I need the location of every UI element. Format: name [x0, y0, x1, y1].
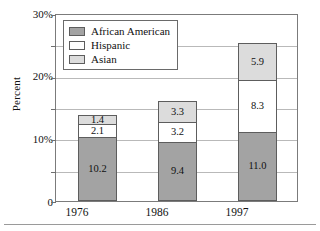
- bar-1976[interactable]: 1.4 2.1 10.2: [78, 115, 117, 201]
- y-tick-label-20: 20%: [9, 71, 53, 82]
- legend-label-asian: Asian: [91, 53, 117, 65]
- legend-item-african-american[interactable]: African American: [69, 24, 170, 38]
- legend-swatch-asian-icon: [69, 55, 85, 64]
- legend-item-hispanic[interactable]: Hispanic: [69, 38, 170, 52]
- y-tickmark-25: [51, 46, 56, 47]
- bar-1986[interactable]: 3.3 3.2 9.4: [158, 101, 197, 201]
- y-axis-tick-labels: 30% 20% 10% 0: [0, 0, 53, 231]
- bar-segment-asian-1986[interactable]: 3.3: [158, 101, 197, 122]
- legend-item-asian[interactable]: Asian: [69, 52, 170, 66]
- bar-segment-african-american-1997[interactable]: 11.0: [238, 132, 277, 201]
- x-tick-label-1986: 1986: [122, 206, 192, 218]
- x-tick-label-1997: 1997: [202, 206, 272, 218]
- legend-label-african-american: African American: [91, 25, 170, 37]
- bar-segment-hispanic-1997[interactable]: 8.3: [238, 80, 277, 132]
- bar-segment-asian-1997[interactable]: 5.9: [238, 43, 277, 80]
- stacked-bar-chart-figure: Percent 30% 20% 10% 0 1.4 2.1 10.2 3.3: [0, 0, 320, 231]
- y-tick-label-10: 10%: [9, 134, 53, 145]
- bottom-divider: [4, 224, 316, 225]
- bar-1997[interactable]: 5.9 8.3 11.0: [238, 43, 277, 201]
- legend-swatch-african-american-icon: [69, 27, 85, 36]
- legend-label-hispanic: Hispanic: [91, 39, 130, 51]
- bar-segment-hispanic-1976[interactable]: 2.1: [78, 124, 117, 137]
- y-tickmark-5: [51, 172, 56, 173]
- legend-swatch-hispanic-icon: [69, 41, 85, 50]
- bar-segment-african-american-1986[interactable]: 9.4: [158, 142, 197, 201]
- plot-area: 1.4 2.1 10.2 3.3 3.2 9.4 5.9 8.3 11.0 Af…: [55, 14, 298, 202]
- bar-segment-hispanic-1986[interactable]: 3.2: [158, 122, 197, 142]
- y-tickmark-20: [51, 78, 56, 79]
- y-tickmark-10: [51, 140, 56, 141]
- bar-segment-asian-1976[interactable]: 1.4: [78, 115, 117, 124]
- y-tick-label-30: 30%: [9, 9, 53, 20]
- y-tickmark-15: [51, 109, 56, 110]
- y-tickmark-0: [51, 202, 56, 203]
- bar-segment-african-american-1976[interactable]: 10.2: [78, 137, 117, 201]
- x-tick-label-1976: 1976: [42, 206, 112, 218]
- chart-legend: African American Hispanic Asian: [63, 20, 178, 70]
- y-tickmark-30: [51, 15, 56, 16]
